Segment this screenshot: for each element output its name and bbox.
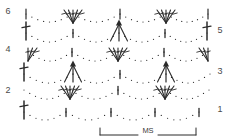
chain-stitch-dot [171,77,172,78]
chain-stitch-dot [129,119,130,120]
chain-stitch-dot [197,19,198,20]
chart-row [20,60,211,83]
cluster-puff [111,19,128,41]
repeat-label: MS [142,126,153,135]
chain-stitch-dot [83,58,84,59]
row-label-left: 6 [5,6,10,16]
chain-stitch-dot [176,80,177,81]
chain-stitch-dot [108,19,109,20]
chain-stitch-dot [67,36,68,37]
chain-stitch-dot [203,93,204,94]
chain-stitch-dot [81,96,82,97]
chart-row [20,101,200,120]
chain-arc [117,51,164,61]
cluster-leg-right [119,24,128,41]
chain-stitch-dot [131,19,132,20]
fan-prong [73,10,78,23]
chain-stitch-dot [72,13,73,14]
chain-stitch-dot [90,41,91,42]
chain-stitch-dot [140,60,141,61]
chain-stitch-dot [107,39,108,40]
chain-stitch-dot [31,36,32,37]
chain-stitch-dot [165,73,166,74]
fan-crossbar [154,89,158,90]
chain-stitch-dot [31,16,32,17]
chain-stitch-dot [102,82,103,83]
chain-stitch-dot [78,16,79,17]
chain-stitch-dot [209,73,210,74]
double-crochet [203,22,211,40]
chain-stitch-dot [105,96,106,97]
chain-stitch-dot [186,21,187,22]
fan-prong [166,10,171,23]
chain-stitch-dot [111,93,112,94]
chain-stitch-dot [186,98,187,99]
row-label-right: 3 [217,66,222,76]
chain-stitch-dot [99,98,100,99]
chain-stitch-dot [106,58,107,59]
dc-crossbar [20,105,28,106]
chain-stitch-dot [118,32,119,33]
chain-stitch-dot [142,21,143,22]
chain-stitch-dot [204,77,205,78]
chain-stitch-dot [65,111,66,112]
chain-stitch-dot [66,55,67,56]
chain-stitch-dot [208,89,209,90]
chain-stitch-dot [102,21,103,22]
chain-stitch-dot [23,73,24,74]
fan-prong [118,48,123,61]
chain-stitch-dot [141,98,142,99]
chain-stitch-dot [101,41,102,42]
chain-stitch-dot [125,16,126,17]
chain-stitch-dot [147,98,148,99]
chain-stitch-dot [64,93,65,94]
chain-stitch-dot [136,41,137,42]
chain-stitch-dot [42,82,43,83]
chain-stitch-dot [46,98,47,99]
chain-stitch-dot [114,16,115,17]
chain-stitch-dot [201,36,202,37]
chain-stitch-dot [90,82,91,83]
chain-stitch-dot [98,118,99,119]
dc-crossbar [203,26,211,27]
chain-stitch-dot [117,51,118,52]
fan-prong [28,48,33,61]
chain-stitch-dot [37,39,38,40]
chain-stitch-dot [131,80,132,81]
chain-arc [154,111,199,120]
chain-stitch-dot [180,119,181,120]
chain-stitch-dot [61,19,62,20]
chain-stitch-dot [142,118,143,119]
chain-stitch-dot [154,80,155,81]
fan-prong [61,86,70,99]
cluster-puff [65,60,82,82]
chain-stitch-dot [55,41,56,42]
chain-stitch-dot [77,55,78,56]
chain-stitch-dot [137,82,138,83]
chain-stitch-dot [84,19,85,20]
fan-prong [204,48,209,61]
chain-stitch-dot [196,39,197,40]
chain-stitch-dot [35,118,36,119]
chain-stitch-dot [176,19,177,20]
cluster-leg-right [73,65,82,82]
chain-stitch-dot [185,60,186,61]
chain-arc [25,32,73,42]
chain-stitch-dot [78,36,79,37]
chain-arc [117,89,165,99]
chain-arc [69,89,118,99]
chain-stitch-dot [113,36,114,37]
chain-stitch-dot [146,60,147,61]
chain-stitch-dot [96,82,97,83]
chain-stitch-dot [159,93,160,94]
chain-arc [65,111,111,120]
chain-stitch-dot [196,58,197,59]
chain-stitch-dot [100,60,101,61]
chain-stitch-dot [170,36,171,37]
chain-stitch-dot [37,19,38,20]
chain-stitch-dot [25,32,26,33]
chain-stitch-dot [36,80,37,81]
chain-stitch-dot [124,36,125,37]
chain-stitch-dot [185,41,186,42]
chain-stitch-dot [93,98,94,99]
